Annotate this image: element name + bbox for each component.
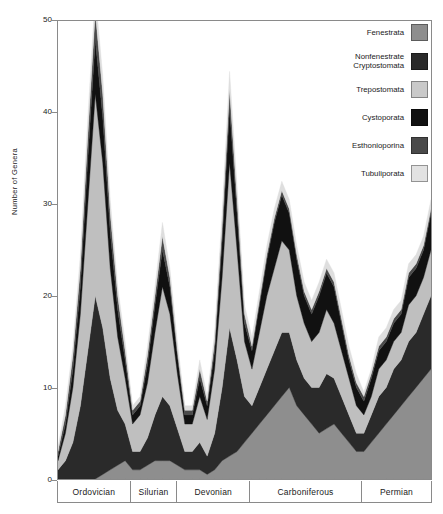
legend-label-cystoporata: Cystoporata	[362, 113, 404, 122]
legend-item-fenestrata: Fenestrata	[296, 24, 428, 41]
legend-item-tubuliporata: Tubuliporata	[296, 165, 428, 182]
esthonioporina-swatch	[411, 137, 428, 154]
y-axis-title: Number of Genera	[10, 95, 19, 215]
fenestrata-swatch	[411, 24, 428, 41]
legend-item-trepostomata: Trepostomata	[296, 81, 428, 98]
y-tick-40: 40	[26, 108, 52, 116]
period-devonian: Devonian	[177, 481, 250, 502]
stacked-area-chart: Number of Genera 50 40 30 20 10 0 Ordovi…	[0, 0, 443, 514]
legend-item-nonfenestrate-cryptostomata: NonfenestrateCryptostomata	[296, 52, 428, 70]
period-permian: Permian	[362, 481, 431, 502]
legend-label-nonfenestrate-cryptostomata: NonfenestrateCryptostomata	[353, 52, 404, 70]
period-carboniferous: Carboniferous	[250, 481, 362, 502]
trepostomata-swatch	[411, 81, 428, 98]
nonfenestrate-cryptostomata-swatch	[411, 53, 428, 70]
period-ordovician: Ordovician	[58, 481, 131, 502]
legend-item-esthonioporina: Esthonioporina	[296, 137, 428, 154]
period-axis: Ordovician Silurian Devonian Carbonifero…	[57, 481, 432, 503]
legend-label-trepostomata: Trepostomata	[356, 85, 404, 94]
y-tick-10: 10	[26, 384, 52, 392]
y-tick-0: 0	[26, 476, 52, 484]
y-tick-30: 30	[26, 200, 52, 208]
legend-label-fenestrata: Fenestrata	[367, 28, 404, 37]
y-tick-50: 50	[26, 16, 52, 24]
period-silurian: Silurian	[131, 481, 178, 502]
y-axis-ticks: 50 40 30 20 10 0	[22, 0, 52, 514]
legend: Fenestrata NonfenestrateCryptostomata Tr…	[296, 24, 428, 193]
legend-label-esthonioporina: Esthonioporina	[352, 141, 404, 150]
cystoporata-swatch	[411, 109, 428, 126]
legend-label-tubuliporata: Tubuliporata	[361, 169, 404, 178]
y-tick-20: 20	[26, 292, 52, 300]
legend-item-cystoporata: Cystoporata	[296, 109, 428, 126]
tubuliporata-swatch	[411, 165, 428, 182]
